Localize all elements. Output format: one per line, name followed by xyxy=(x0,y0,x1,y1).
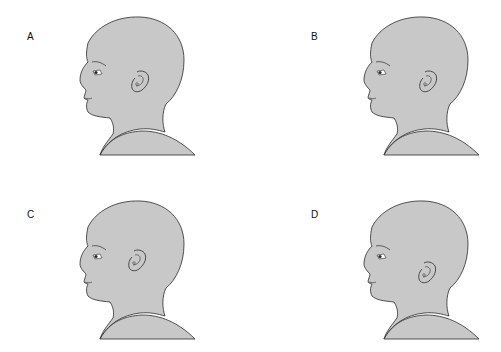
infant-head-profile-illustration xyxy=(250,176,500,352)
panel-c: C xyxy=(0,176,250,352)
head-shape xyxy=(364,17,479,155)
panel-a: A xyxy=(0,0,250,176)
panel-d: D xyxy=(250,176,500,352)
infant-head-profile-illustration xyxy=(0,176,250,352)
panel-b: B xyxy=(250,0,500,176)
infant-head-profile-illustration xyxy=(0,0,250,176)
infant-head-profile-illustration xyxy=(250,0,500,176)
